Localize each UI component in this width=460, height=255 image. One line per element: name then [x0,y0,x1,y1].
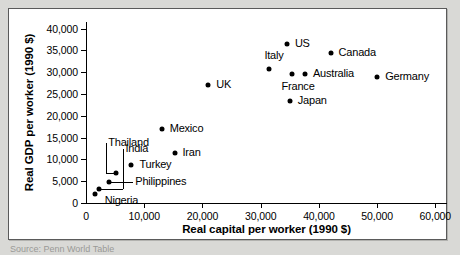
data-label-iran: Iran [183,146,201,158]
data-label-thailand: Thailand [108,136,149,148]
data-point-us [284,41,289,46]
data-label-philippines: Philippines [135,175,186,187]
x-axis-title: Real capital per worker (1990 $) [86,223,447,235]
x-tick-label: 0 [83,210,89,222]
y-tick [81,159,86,160]
y-axis-title: Real GDP per worker (1990 $) [21,22,37,203]
leader-line-h-india [99,189,123,190]
y-tick-label: 35,000 [46,44,78,56]
leader-line-h-thailand [106,173,116,174]
leader-line-thailand [106,143,107,173]
x-tick [144,203,145,208]
y-tick-label: 5,000 [52,175,78,187]
x-tick-label: 50,000 [361,210,393,222]
x-tick [261,203,262,208]
y-tick-label: 40,000 [46,23,78,35]
y-axis-line [86,22,87,203]
leader-line-india [123,149,124,189]
figure-page: Real GDP per worker (1990 $) 05,00010,00… [0,0,460,255]
x-tick-label: 10,000 [128,210,160,222]
y-tick [81,203,86,204]
y-tick-label: 0 [72,197,78,209]
y-tick-label: 15,000 [46,132,78,144]
data-label-australia: Australia [313,67,354,79]
data-point-mexico [159,126,164,131]
y-tick [81,94,86,95]
data-label-uk: UK [216,78,231,90]
data-label-france: France [282,80,315,92]
x-tick [435,203,436,208]
data-label-italy: Italy [264,49,283,61]
data-label-canada: Canada [339,46,376,58]
data-point-japan [287,98,292,103]
y-tick [81,50,86,51]
y-tick [81,116,86,117]
data-label-germany: Germany [385,70,429,82]
data-label-us: US [295,37,310,49]
data-point-france [289,71,294,76]
x-axis-line [86,203,447,204]
x-tick [319,203,320,208]
data-label-turkey: Turkey [139,158,171,170]
data-point-uk [206,83,211,88]
x-tick-label: 30,000 [245,210,277,222]
x-tick-label: 40,000 [303,210,335,222]
data-point-australia [302,71,307,76]
data-point-italy [267,66,272,71]
chart-frame: Real GDP per worker (1990 $) 05,00010,00… [8,8,447,240]
x-tick-label: 20,000 [187,210,219,222]
y-tick-label: 20,000 [46,110,78,122]
data-label-japan: Japan [298,94,327,106]
y-tick [81,72,86,73]
y-tick [81,181,86,182]
data-point-nigeria [92,192,97,197]
y-tick-label: 25,000 [46,88,78,100]
data-point-canada [328,50,333,55]
y-tick-label: 30,000 [46,66,78,78]
y-tick [81,29,86,30]
data-point-iran [172,150,177,155]
data-point-turkey [129,163,134,168]
figure-caption: Source: Penn World Table [10,244,450,254]
plot-area: 05,00010,00015,00020,00025,00030,00035,0… [86,22,447,203]
data-point-germany [375,74,380,79]
y-tick-label: 10,000 [46,153,78,165]
x-tick [202,203,203,208]
data-label-mexico: Mexico [170,122,204,134]
x-tick-label: 60,000 [420,210,452,222]
x-tick [377,203,378,208]
leader-line-philippines [109,182,133,183]
data-label-nigeria: Nigeria [105,194,138,206]
y-tick [81,138,86,139]
